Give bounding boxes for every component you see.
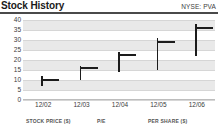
stock-history-panel: Stock History NYSE: PVA 4035302520151050…: [0, 0, 218, 126]
high-low-stem: [157, 38, 159, 70]
footer-column-label: P/E: [97, 118, 106, 125]
y-axis: 4035302520151050: [0, 20, 23, 100]
page-title: Stock History: [0, 0, 64, 11]
y-axis-tick-label: 40: [1, 17, 23, 23]
y-axis-tick-label: 30: [1, 37, 23, 43]
x-axis-tick-label: 12/05: [150, 101, 166, 109]
y-axis-tick-label: 0: [1, 97, 23, 103]
header-divider: [0, 12, 218, 14]
footer-column-label: STOCK PRICE ($): [26, 118, 71, 125]
close-price-tick: [157, 41, 175, 43]
x-axis-tick-label: 12/03: [73, 101, 89, 109]
y-axis-tick-label: 10: [1, 77, 23, 83]
close-price-tick: [195, 27, 213, 29]
x-axis-tick-label: 12/06: [189, 101, 205, 109]
y-axis-tick-label: 5: [1, 87, 23, 93]
x-axis-tick-label: 12/04: [112, 101, 128, 109]
close-price-tick: [118, 54, 136, 56]
close-price-tick: [41, 79, 59, 81]
y-axis-tick-label: 20: [1, 57, 23, 63]
data-marker-layer: [23, 20, 215, 100]
x-axis: 12/0212/0312/0412/0512/06: [23, 101, 215, 111]
high-low-stem: [41, 76, 43, 86]
x-axis-tick-label: 12/02: [35, 101, 51, 109]
footer-column-headers: STOCK PRICE ($)P/EPER SHARE ($): [0, 118, 218, 126]
close-price-tick: [80, 67, 98, 69]
ticker-symbol: NYSE: PVA: [181, 0, 218, 12]
footer-column-label: PER SHARE ($): [148, 118, 187, 125]
y-axis-tick-label: 35: [1, 27, 23, 33]
y-axis-tick-label: 15: [1, 67, 23, 73]
high-low-stem: [195, 24, 197, 56]
y-axis-tick-label: 25: [1, 47, 23, 53]
